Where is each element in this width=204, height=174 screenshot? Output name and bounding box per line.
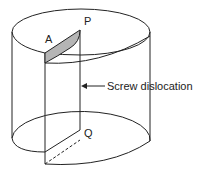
diagram: A P Q Screw dislocation <box>0 0 204 174</box>
point-p-label: P <box>84 16 91 27</box>
screw-dislocation-label: Screw dislocation <box>107 81 193 92</box>
point-q-label: Q <box>84 128 93 139</box>
point-a-label: A <box>45 34 52 45</box>
top-ellipse <box>12 9 150 55</box>
bottom-ellipse-back <box>12 111 150 141</box>
